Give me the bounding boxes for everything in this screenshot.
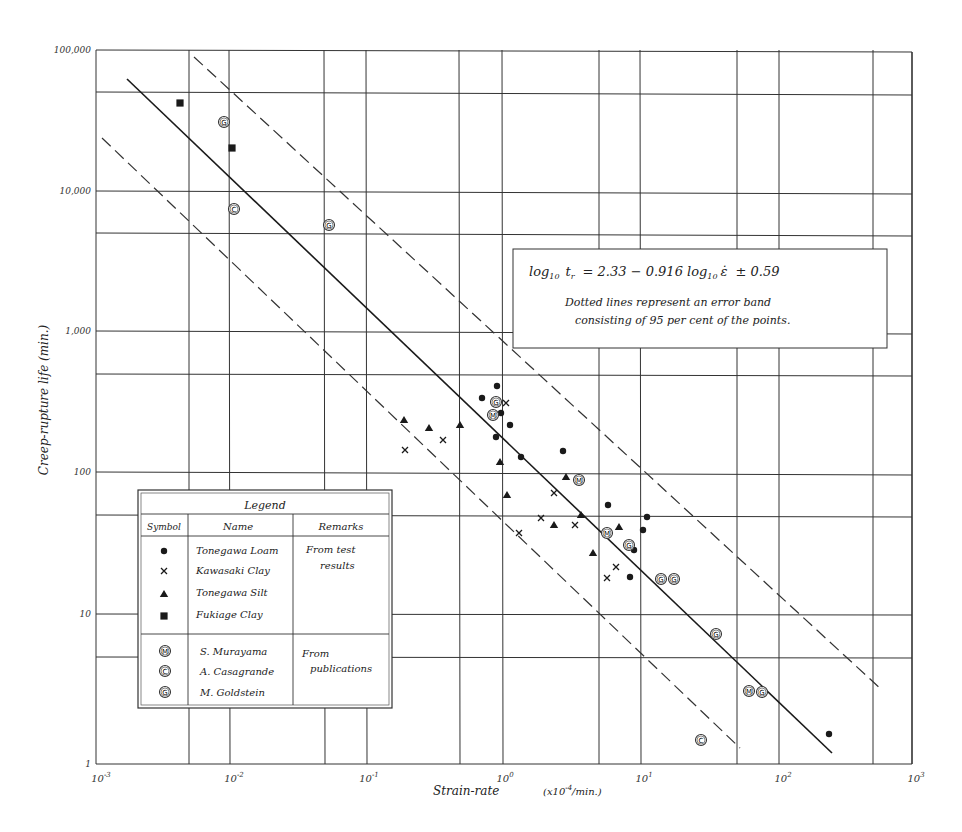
svg-text:Fukiage Clay: Fukiage Clay	[195, 609, 263, 620]
svg-text:1: 1	[85, 759, 91, 769]
series-tonegawa-silt	[400, 416, 623, 556]
svg-text:103: 103	[907, 771, 925, 784]
svg-text:results: results	[320, 560, 355, 571]
svg-text:G: G	[713, 631, 718, 639]
svg-text:M: M	[746, 688, 752, 696]
svg-text:100: 100	[74, 467, 91, 477]
series-murayama: M M M M	[488, 410, 755, 697]
svg-text:G: G	[658, 576, 663, 584]
svg-text:M: M	[576, 477, 582, 485]
svg-text:10-3: 10-3	[91, 771, 111, 784]
svg-text:From test: From test	[305, 544, 356, 555]
svg-text:Name: Name	[222, 521, 253, 532]
x-axis-ticks: 10-3 10-2 10-1 100 101 102 103	[91, 771, 925, 784]
svg-text:publications: publications	[310, 663, 372, 674]
svg-text:(x10-4/min.): (x10-4/min.)	[543, 784, 602, 797]
svg-text:10-2: 10-2	[224, 771, 244, 784]
svg-text:M: M	[604, 530, 610, 538]
svg-text:Tonegawa Loam: Tonegawa Loam	[196, 545, 278, 556]
svg-text:Remarks: Remarks	[318, 521, 364, 532]
svg-text:G: G	[493, 399, 498, 407]
y-axis-label: Creep-rupture life (min.)	[37, 325, 51, 476]
x-axis-label: Strain-rate (x10-4/min.)	[433, 784, 602, 798]
svg-text:Strain-rate: Strain-rate	[433, 784, 499, 798]
svg-text:A. Casagrande: A. Casagrande	[199, 666, 274, 677]
svg-text:102: 102	[774, 771, 792, 784]
svg-text:C: C	[699, 737, 704, 745]
svg-text:G: G	[671, 576, 676, 584]
svg-text:M. Goldstein: M. Goldstein	[199, 687, 265, 698]
svg-text:M: M	[162, 648, 168, 656]
svg-text:10-1: 10-1	[359, 771, 379, 784]
svg-text:1,000: 1,000	[65, 326, 91, 336]
svg-text:M: M	[490, 412, 496, 420]
svg-text:10,000: 10,000	[60, 186, 92, 196]
error-band-note-line1: Dotted lines represent an error band	[564, 296, 771, 309]
svg-text:C: C	[232, 206, 237, 214]
svg-text:100,000: 100,000	[54, 45, 91, 55]
svg-text:100: 100	[496, 771, 514, 784]
svg-text:101: 101	[635, 771, 652, 784]
svg-text:log10tr= 2.33 − 0.916 log10ε̇: log10tr= 2.33 − 0.916 log10ε̇± 0.59	[529, 264, 780, 281]
svg-text:G: G	[162, 689, 167, 697]
svg-text:Tonegawa Silt: Tonegawa Silt	[196, 587, 269, 598]
y-axis-ticks: 100,000 10,000 1,000 100 10 1	[54, 45, 91, 769]
svg-text:G: G	[221, 119, 226, 127]
svg-text:S. Murayama: S. Murayama	[200, 646, 267, 657]
legend-title: Legend	[243, 499, 286, 512]
svg-text:From: From	[301, 648, 329, 659]
svg-text:Kawasaki Clay: Kawasaki Clay	[195, 565, 270, 576]
creep-rupture-chart: M M M M C C G G G G G G G G 100,000 10,0…	[0, 0, 962, 832]
svg-text:G: G	[759, 689, 764, 697]
svg-text:G: G	[626, 542, 631, 550]
svg-text:Symbol: Symbol	[147, 522, 181, 532]
error-band-note-line2: consisting of 95 per cent of the points.	[575, 314, 790, 327]
svg-text:G: G	[326, 222, 331, 230]
svg-text:10: 10	[80, 609, 92, 619]
svg-text:C: C	[163, 668, 168, 676]
